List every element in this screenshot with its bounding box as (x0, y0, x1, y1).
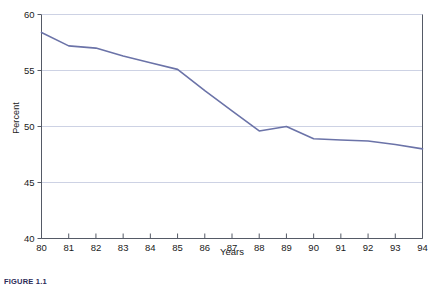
svg-text:40: 40 (24, 233, 35, 244)
figure-container: 4045505560 80818283848586878889909192939… (0, 0, 445, 288)
svg-text:50: 50 (24, 121, 35, 132)
y-tick-marks (38, 15, 42, 239)
svg-text:60: 60 (24, 9, 35, 20)
svg-text:55: 55 (24, 65, 35, 76)
gridlines (42, 15, 423, 183)
svg-text:45: 45 (24, 177, 35, 188)
figure-caption: FIGURE 1.1 (4, 277, 47, 286)
line-chart: 4045505560 80818283848586878889909192939… (0, 0, 445, 262)
x-axis-title: Years (41, 246, 423, 257)
x-tick-marks (42, 234, 423, 239)
data-series-line (42, 32, 423, 148)
y-axis-title: Percent (11, 82, 21, 154)
y-tick-labels: 4045505560 (24, 9, 35, 244)
chart-canvas: 4045505560 80818283848586878889909192939… (0, 0, 445, 262)
